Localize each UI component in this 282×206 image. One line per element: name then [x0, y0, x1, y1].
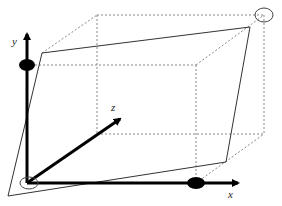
- z-axis: [27, 119, 120, 183]
- x-marker-dot: [187, 177, 205, 189]
- cube-top-right-diagonal: [196, 15, 264, 65]
- z-axis-label: z: [110, 101, 116, 113]
- x-axis-label: x: [227, 188, 233, 200]
- y-axis-label: y: [11, 35, 17, 47]
- coordinate-diagram: y z x: [0, 0, 282, 206]
- y-marker-dot: [19, 59, 35, 71]
